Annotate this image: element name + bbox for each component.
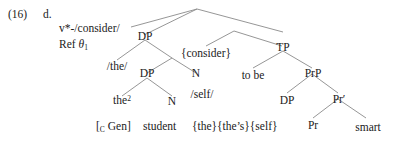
node-the-determiner: the2: [113, 95, 131, 107]
branch-tp-right: [283, 51, 312, 68]
v-head-annotation: v*-/consider/ Ref θ1: [59, 22, 120, 53]
node-self-phonology: /self/: [191, 89, 214, 101]
node-n-inner: N: [168, 96, 176, 108]
example-letter-text: d.: [43, 8, 52, 20]
node-smart: smart: [355, 122, 381, 134]
ref-theta-line: Ref θ1: [59, 38, 120, 53]
example-number: (16) d.: [8, 8, 52, 21]
the-determiner-superscript: 2: [127, 94, 131, 103]
branch-dp-outer-left: [117, 40, 145, 60]
node-n-outer: N: [192, 68, 200, 80]
branch-vp-right: [234, 31, 282, 46]
the-determiner-text: the: [113, 94, 127, 106]
ref-label: Ref: [59, 38, 78, 50]
terminal-gen: [C Gen]: [96, 120, 131, 135]
branch-dp-outer-right: [145, 40, 172, 58]
node-tp: TP: [276, 42, 289, 54]
branch-tp-left: [253, 51, 283, 68]
branch-root-right: [197, 9, 283, 32]
example-number-text: (16): [8, 8, 27, 20]
branch-root-left: [131, 9, 197, 27]
branch-dp-inner-right: [147, 78, 172, 96]
syntax-tree-figure: (16) d. v*-/consider/ Ref θ1 DP {conside…: [0, 0, 394, 148]
node-dp-inner: DP: [140, 68, 155, 80]
v-head-phonology: v*-/consider/: [59, 22, 120, 35]
node-dp-outer: DP: [138, 31, 153, 43]
node-prp: PrP: [305, 68, 322, 80]
terminal-copies: {the}{the’s}{self}: [192, 120, 278, 133]
terminal-student: student: [143, 120, 176, 133]
node-the-phonology: /the/: [107, 61, 127, 73]
node-pr: Pr: [308, 120, 318, 132]
theta-subscript: 1: [84, 43, 88, 52]
node-to-be: to be: [242, 70, 265, 82]
node-pr-bar: Pr′: [333, 94, 346, 106]
node-consider-copy: {consider}: [181, 48, 231, 60]
gen-label-text: Gen]: [105, 120, 131, 132]
node-dp-lower: DP: [280, 95, 295, 107]
branch-vp-left: [206, 31, 234, 46]
